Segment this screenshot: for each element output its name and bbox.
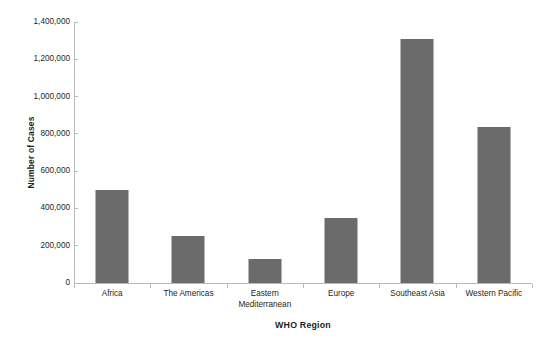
bar-chart: Number of Cases 0200,000400,000600,00080…: [0, 0, 542, 341]
x-axis-tick-mark: [303, 284, 304, 288]
bar[interactable]: [248, 259, 281, 283]
y-axis-tick-label: 1,000,000: [20, 93, 70, 101]
x-axis-tick-mark: [532, 284, 533, 288]
bar-slot: [303, 22, 379, 283]
bar-slot: [150, 22, 226, 283]
x-axis-category-label: Western Pacific: [456, 289, 532, 300]
y-axis-tick-label: 400,000: [20, 204, 70, 212]
bar[interactable]: [477, 127, 510, 283]
bar[interactable]: [96, 190, 129, 283]
bar[interactable]: [401, 39, 434, 283]
x-axis-category-label: EasternMediterranean: [227, 289, 303, 310]
y-axis-tick-label: 1,400,000: [20, 18, 70, 26]
y-axis-tick-label: 200,000: [20, 242, 70, 250]
x-axis-category-label: Africa: [74, 289, 150, 300]
x-axis-category-label-line: Europe: [303, 289, 379, 300]
x-axis-tick-mark: [227, 284, 228, 288]
bar-slot: [456, 22, 532, 283]
x-axis-category-label-line: Mediterranean: [227, 300, 303, 311]
y-axis-tick-label: 1,200,000: [20, 55, 70, 63]
x-axis-category-label: Europe: [303, 289, 379, 300]
y-axis-tick-label: 600,000: [20, 167, 70, 175]
x-axis-title: WHO Region: [74, 320, 532, 330]
bar-slot: [74, 22, 150, 283]
y-axis-title: Number of Cases: [22, 0, 40, 283]
x-axis-category-label-line: Africa: [74, 289, 150, 300]
x-axis-tick-mark: [74, 284, 75, 288]
x-axis-tick-mark: [379, 284, 380, 288]
bar[interactable]: [172, 236, 205, 283]
x-axis-category-label-line: The Americas: [150, 289, 226, 300]
x-axis-category-label: The Americas: [150, 289, 226, 300]
x-axis-category-label-line: Eastern: [227, 289, 303, 300]
bar[interactable]: [325, 218, 358, 283]
x-axis-tick-mark: [150, 284, 151, 288]
x-axis-tick-mark: [456, 284, 457, 288]
x-axis-category-label: Southeast Asia: [379, 289, 455, 300]
y-axis-tick-label: 0: [20, 279, 70, 287]
plot-area: [74, 22, 532, 283]
bar-slot: [379, 22, 455, 283]
bar-slot: [227, 22, 303, 283]
y-axis-tick-label: 800,000: [20, 130, 70, 138]
x-axis-category-label-line: Western Pacific: [456, 289, 532, 300]
x-axis-category-label-line: Southeast Asia: [379, 289, 455, 300]
